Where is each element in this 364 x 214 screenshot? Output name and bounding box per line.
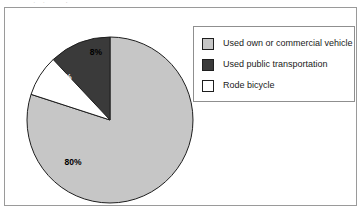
chart-frame: 80% 12% 8% Used own or commercial vehicl… [4, 7, 357, 206]
legend-swatch-bicycle-icon [202, 80, 214, 92]
pie-chart: 80% 12% 8% [15, 28, 200, 208]
legend-item-bicycle[interactable]: Rode bicycle [202, 75, 354, 96]
legend-label-vehicle: Used own or commercial vehicle [223, 38, 353, 49]
legend-swatch-vehicle-icon [202, 38, 214, 50]
pie-chart-figure: commute to work 80% 12% 8% Used own or c… [0, 0, 364, 214]
legend-swatch-public-transportation-icon [202, 59, 214, 71]
pie-label-vehicle: 80% [64, 157, 81, 167]
pie-label-public-transportation: 12% [54, 72, 71, 82]
clipped-top-text: commute to work [6, 0, 306, 3]
legend-label-bicycle: Rode bicycle [223, 80, 275, 91]
legend: Used own or commercial vehicle Used publ… [193, 26, 355, 102]
pie-label-bicycle: 8% [90, 47, 103, 57]
legend-item-vehicle[interactable]: Used own or commercial vehicle [202, 33, 354, 54]
legend-item-public-transportation[interactable]: Used public transportation [202, 54, 354, 75]
legend-label-public-transportation: Used public transportation [223, 59, 328, 70]
